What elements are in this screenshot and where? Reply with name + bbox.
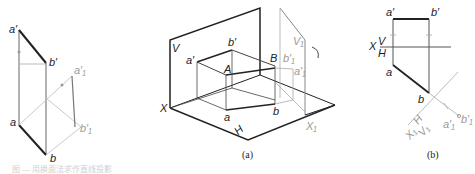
label-b-prime: b′: [228, 36, 237, 48]
label-b-prime: b′: [49, 56, 58, 68]
label-X: X: [368, 40, 377, 52]
label-V: V: [378, 35, 387, 47]
label-b: b: [273, 105, 279, 117]
label-a1-prime: a′₁: [443, 118, 455, 130]
projection-diagram: a′ b′ a′₁ b′₁ a b V X: [0, 0, 475, 174]
left-figure: a′ b′ a′₁ b′₁ a b: [9, 23, 92, 164]
label-a: a: [10, 116, 16, 128]
figure-a: V X H a′ b′ A B a b V₁ b′₁ a′₁ X₁ (a): [159, 8, 335, 161]
label-a1-prime: a′₁: [74, 64, 86, 76]
caption-a: (a): [242, 149, 253, 161]
label-b: b: [418, 93, 424, 105]
label-a-prime: a′: [386, 6, 395, 18]
label-a: a: [386, 66, 392, 78]
label-V: V: [172, 42, 181, 54]
label-b-prime: b′: [431, 6, 440, 18]
label-B: B: [270, 52, 277, 64]
label-H: H: [378, 47, 386, 59]
label-X1: X₁: [305, 120, 317, 132]
label-b: b: [50, 152, 56, 164]
figure-b: a′ b′ X V H a b X₁ H V₁ a′₁ b′₁ (b): [368, 6, 473, 161]
label-V1: V₁: [293, 35, 304, 47]
label-b1-prime: b′₁: [80, 122, 92, 134]
label-X1: X₁: [402, 125, 419, 142]
caption-b: (b): [427, 149, 439, 161]
label-a-prime: a′: [186, 54, 195, 66]
label-a1-prime: a′₁: [294, 65, 306, 77]
label-a: a: [224, 111, 230, 123]
label-b1-prime: b′₁: [461, 113, 473, 125]
label-b1-prime: b′₁: [283, 52, 295, 64]
label-A: A: [223, 63, 231, 75]
footer-text: 图 — 用换面法求作直线投影: [12, 164, 112, 174]
label-X: X: [159, 102, 168, 114]
label-a-prime: a′: [9, 23, 18, 35]
